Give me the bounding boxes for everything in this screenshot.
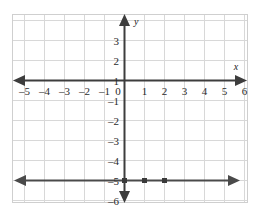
- x-tick-label: –2: [78, 85, 90, 97]
- coordinate-graph: –5 –4 –3 –2 –1 0 1 2 3 4 5 6 3 2 1 –1 –2…: [0, 0, 262, 216]
- y-tick-label: –6: [107, 195, 120, 207]
- data-point-1-minus5: [142, 178, 147, 183]
- x-tick-label: 6: [242, 85, 248, 97]
- x-tick-label: –4: [38, 85, 51, 97]
- x-tick-label: 5: [222, 85, 228, 97]
- x-tick-label: 2: [162, 85, 168, 97]
- x-tick-label: 3: [182, 85, 188, 97]
- data-point-2-minus5: [162, 178, 167, 183]
- x-tick-label: 1: [142, 85, 148, 97]
- y-axis-label: y: [133, 16, 139, 27]
- x-tick-label: –3: [58, 85, 71, 97]
- y-tick-label: –1: [107, 95, 119, 107]
- x-tick-label: –5: [18, 85, 31, 97]
- x-tick-label: 4: [202, 85, 208, 97]
- y-tick-label: 3: [114, 35, 120, 47]
- data-point-0-minus5: [122, 178, 127, 183]
- y-tick-label: –3: [107, 135, 120, 147]
- plot-background: [12, 14, 248, 203]
- y-tick-label: –4: [107, 155, 120, 167]
- x-axis-label: x: [233, 61, 239, 72]
- y-tick-label: –2: [107, 115, 119, 127]
- cartesian-plane-svg: –5 –4 –3 –2 –1 0 1 2 3 4 5 6 3 2 1 –1 –2…: [0, 0, 262, 216]
- y-tick-label: –5: [107, 175, 120, 187]
- y-tick-label: 2: [114, 55, 120, 67]
- y-tick-label: 1: [114, 75, 120, 87]
